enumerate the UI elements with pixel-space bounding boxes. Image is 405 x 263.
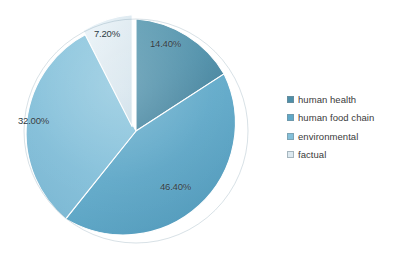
pie-gloss-overlay <box>24 19 248 243</box>
legend-item-human-food-chain[interactable]: human food chain <box>287 109 405 128</box>
pie-graphic <box>0 0 275 263</box>
legend-item-label: human health <box>298 94 356 105</box>
legend-swatch-icon <box>287 151 294 158</box>
pie-value-label-factual: 7.20% <box>94 28 120 39</box>
legend-item-label: environmental <box>298 131 358 142</box>
pie-value-label-human-health: 14.40% <box>150 38 181 49</box>
pie-chart: 14.40% 46.40% 32.00% 7.20% human health … <box>0 0 405 263</box>
pie-value-label-environmental: 32.00% <box>18 115 49 126</box>
chart-legend: human health human food chain environmen… <box>287 90 405 164</box>
legend-item-factual[interactable]: factual <box>287 146 405 165</box>
legend-swatch-icon <box>287 96 294 103</box>
legend-item-environmental[interactable]: environmental <box>287 127 405 146</box>
legend-item-human-health[interactable]: human health <box>287 90 405 109</box>
legend-swatch-icon <box>287 133 294 140</box>
pie-value-label-human-food-chain: 46.40% <box>160 181 191 192</box>
legend-swatch-icon <box>287 114 294 121</box>
legend-item-label: human food chain <box>298 112 374 123</box>
legend-item-label: factual <box>298 149 326 160</box>
pie-plot-area: 14.40% 46.40% 32.00% 7.20% <box>0 0 275 263</box>
